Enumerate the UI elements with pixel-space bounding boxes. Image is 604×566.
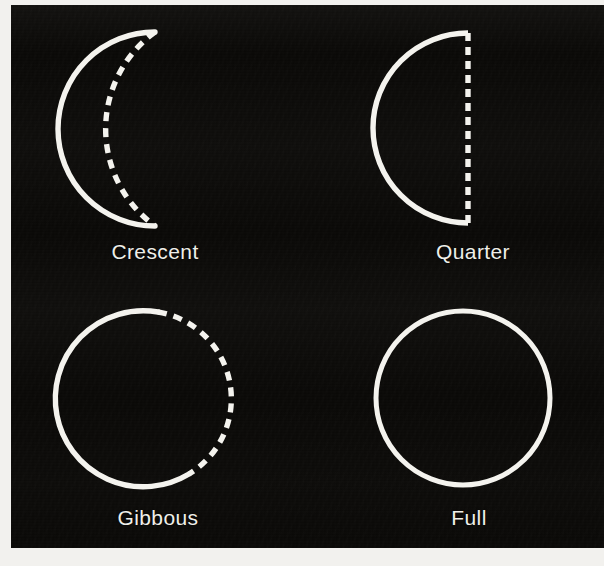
phase-label-crescent: Crescent [111, 240, 198, 264]
phase-label-gibbous: Gibbous [117, 506, 198, 530]
phase-glyph-gibbous [55, 311, 231, 487]
phase-glyph-full [376, 311, 550, 485]
gibbous-lit-limb-arc [55, 311, 189, 487]
moon-phases-figure: Crescent Quarter Gibbous Full [0, 0, 604, 566]
phase-label-full: Full [451, 506, 486, 530]
phase-glyph-quarter [373, 33, 468, 223]
phase-label-quarter: Quarter [436, 240, 510, 264]
phase-glyph-crescent [58, 32, 155, 226]
crescent-terminator-dashed-arc [106, 32, 155, 226]
gibbous-terminator-dashed-arc [158, 312, 231, 474]
quarter-lit-limb-arc [373, 33, 468, 223]
phases-vector-layer [0, 0, 604, 566]
full-lit-limb-circle [376, 311, 550, 485]
